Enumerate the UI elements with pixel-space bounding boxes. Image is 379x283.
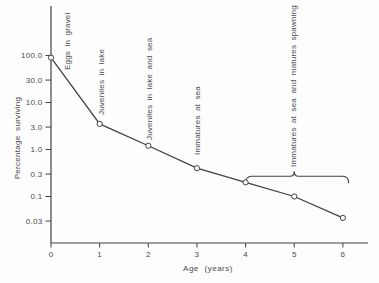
y-tick-label: 0.1 [30, 192, 42, 201]
x-tick-label: 6 [341, 250, 346, 259]
x-axis-title: Age (years) [183, 264, 233, 273]
y-tick-label: 3.0 [30, 123, 42, 132]
y-axis-title: Percentage surviving [13, 97, 22, 180]
x-tick-label: 1 [97, 250, 102, 259]
x-tick-label: 2 [146, 250, 151, 259]
survivorship-figure: 100.030.010.03.01.00.30.10.030123456 Egg… [0, 0, 379, 283]
data-point-age-4 [243, 180, 248, 185]
stage-label-juveniles-in-lake-and-sea: Juveniles in lake and sea [145, 38, 155, 140]
y-tick-label: 0.03 [26, 217, 43, 226]
data-point-age-6 [340, 215, 345, 220]
data-point-age-5 [292, 194, 297, 199]
stage-label-juveniles-in-lake: Juveniles in lake [97, 49, 107, 115]
y-tick-label: 100.0 [21, 51, 43, 60]
x-tick-label: 4 [243, 250, 248, 259]
data-point-age-0 [48, 55, 53, 60]
data-point-age-2 [146, 143, 151, 148]
stage-label-immatures-at-sea-and-matures-spawning: Immatures at sea and matures spawning [289, 5, 299, 167]
stage-label-eggs-in-gravel: Eggs in gravel [63, 13, 73, 71]
x-tick-label: 5 [292, 250, 297, 259]
stage-brace [246, 171, 349, 183]
y-tick-label: 1.0 [30, 145, 42, 154]
data-point-age-3 [194, 166, 199, 171]
x-tick-label: 0 [49, 250, 54, 259]
stage-label-immatures-at-sea: Immatures at sea [193, 86, 203, 155]
data-point-age-1 [97, 121, 102, 126]
y-tick-label: 10.0 [26, 98, 43, 107]
y-tick-label: 30.0 [26, 76, 43, 85]
survivorship-chart: 100.030.010.03.01.00.30.10.030123456 [0, 0, 379, 283]
y-tick-label: 0.3 [30, 170, 42, 179]
x-tick-label: 3 [195, 250, 200, 259]
